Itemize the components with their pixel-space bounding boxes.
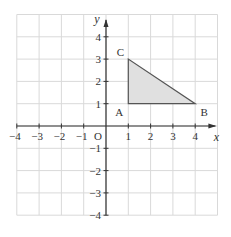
labels: −4−3−2−112344321−1−2−3−4OxyABC [9,12,220,221]
coordinate-grid-figure: −4−3−2−112344321−1−2−3−4OxyABC [0,0,231,237]
vertex-label-b: B [201,106,208,118]
y-tick-label: 1 [96,98,102,110]
y-tick-label: 4 [96,31,102,43]
x-tick-label: −4 [9,130,21,142]
x-tick-label: 3 [170,130,176,142]
y-tick-label: −3 [89,187,101,199]
x-tick-label: 4 [192,130,198,142]
y-axis-arrow-icon [104,19,109,27]
y-tick-label: −2 [89,165,101,177]
y-tick-label: 3 [96,53,102,65]
x-axis-label: x [213,130,220,144]
y-tick-label: 2 [96,75,102,87]
x-tick-label: 2 [148,130,154,142]
y-tick-label: −4 [89,209,101,221]
vertex-label-a: A [115,106,123,118]
x-axis-arrow-icon [208,124,216,129]
y-axis-label: y [93,12,100,26]
y-tick-label: −1 [89,142,101,154]
x-tick-label: −2 [54,130,66,142]
vertex-label-c: C [117,46,124,58]
x-tick-label: −1 [76,130,88,142]
x-tick-label: 1 [126,130,132,142]
x-tick-label: −3 [31,130,43,142]
origin-label: O [94,130,102,142]
